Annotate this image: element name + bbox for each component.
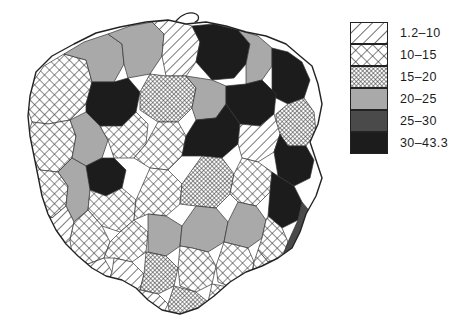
legend-row: 25–30 <box>350 110 462 132</box>
legend-row: 1.2–10 <box>350 22 462 44</box>
legend-label-5: 25–30 <box>400 110 437 132</box>
legend-row: 30–43.3 <box>350 132 462 154</box>
legend-swatch-4 <box>350 88 388 110</box>
legend-swatch-1 <box>350 22 388 44</box>
legend-label-4: 20–25 <box>400 88 437 110</box>
map-region <box>206 284 244 314</box>
poland-choropleth-map <box>0 0 348 332</box>
legend-label-3: 15–20 <box>400 66 437 88</box>
map-svg <box>0 0 348 332</box>
map-region <box>216 242 254 288</box>
legend-swatch-3 <box>350 66 388 88</box>
legend-label-1: 1.2–10 <box>400 22 441 44</box>
legend-swatch-5 <box>350 110 388 132</box>
legend-row: 10–15 <box>350 44 462 66</box>
legend-label-6: 30–43.3 <box>400 132 448 154</box>
legend-row: 20–25 <box>350 88 462 110</box>
figure-root: 1.2–10 10–15 15–20 20–25 <box>0 0 467 332</box>
legend-swatch-2 <box>350 44 388 66</box>
legend-label-2: 10–15 <box>400 44 437 66</box>
map-region <box>272 48 310 104</box>
legend-row: 15–20 <box>350 66 462 88</box>
hel-peninsula-icon <box>176 13 199 22</box>
legend-swatch-6 <box>350 132 388 154</box>
map-legend: 1.2–10 10–15 15–20 20–25 <box>350 20 462 162</box>
map-regions-layer <box>0 0 348 332</box>
